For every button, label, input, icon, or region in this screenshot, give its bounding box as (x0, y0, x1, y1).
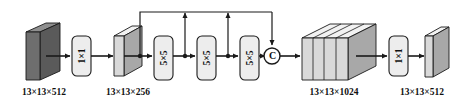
concat-glyph: C (269, 50, 276, 61)
op-label-conv-in: 1×1 (77, 36, 87, 76)
op-label-pool-2: 5×5 (202, 38, 212, 78)
tensor-label-output: 13×13×512 (390, 87, 454, 97)
tensor-output (425, 27, 449, 77)
tensor-label-reduce: 13×13×256 (84, 87, 172, 97)
tensor-label-concat: 13×13×1024 (288, 87, 380, 97)
op-label-pool-3: 5×5 (245, 38, 255, 78)
tensor-input (26, 23, 60, 80)
op-label-pool-1: 5×5 (159, 38, 169, 78)
architecture-diagram: C 1×1 5×5 5×5 5×5 1×1 13×13×512 13×13×25… (0, 0, 454, 107)
op-label-conv-out: 1×1 (394, 36, 404, 76)
tensor-label-input: 13×13×512 (0, 87, 88, 97)
tensor-reduce (114, 26, 142, 76)
tensor-concat (302, 24, 376, 80)
